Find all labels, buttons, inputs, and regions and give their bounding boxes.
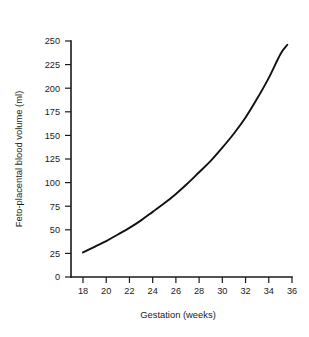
y-tick-label: 50 xyxy=(50,225,60,235)
x-tick-label: 20 xyxy=(101,286,111,296)
x-tick-mark-group xyxy=(83,277,292,283)
y-tick-label: 225 xyxy=(45,60,60,70)
x-tick-label: 30 xyxy=(217,286,227,296)
x-tick-label: 32 xyxy=(240,286,250,296)
y-tick-label: 25 xyxy=(50,249,60,259)
y-tick-label: 100 xyxy=(45,178,60,188)
x-tick-label: 24 xyxy=(148,286,158,296)
y-tick-label: 125 xyxy=(45,154,60,164)
y-tick-label: 0 xyxy=(55,272,60,282)
y-tick-label: 150 xyxy=(45,131,60,141)
x-tick-label: 34 xyxy=(264,286,274,296)
x-tick-label-group: 18202224262830323436 xyxy=(78,286,297,296)
x-axis-title: Gestation (weeks) xyxy=(140,309,216,320)
chart-figure: 0255075100125150175200225250 18202224262… xyxy=(0,0,309,337)
x-tick-label: 22 xyxy=(124,286,134,296)
x-tick-label: 28 xyxy=(194,286,204,296)
x-tick-label: 36 xyxy=(287,286,297,296)
line-chart: 0255075100125150175200225250 18202224262… xyxy=(0,0,309,337)
y-tick-label: 250 xyxy=(45,36,60,46)
y-tick-label-group: 0255075100125150175200225250 xyxy=(45,36,60,282)
y-tick-label: 200 xyxy=(45,84,60,94)
y-axis-title: Feto-placental blood volume (ml) xyxy=(13,91,24,228)
data-curve-feto-placental-blood-volume xyxy=(83,45,287,253)
x-tick-label: 26 xyxy=(171,286,181,296)
y-tick-label: 175 xyxy=(45,107,60,117)
x-tick-label: 18 xyxy=(78,286,88,296)
y-tick-label: 75 xyxy=(50,202,60,212)
y-tick-mark-group xyxy=(65,41,71,277)
